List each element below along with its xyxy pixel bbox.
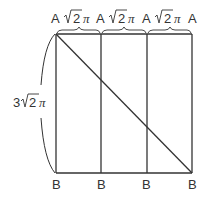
point-label-a-3: A — [142, 11, 151, 26]
point-label-b-4: B — [188, 177, 197, 192]
point-label-b-3: B — [142, 177, 151, 192]
svg-text:2: 2 — [73, 11, 80, 26]
svg-text:2: 2 — [118, 11, 125, 26]
svg-text:π: π — [83, 11, 90, 26]
svg-text:π: π — [174, 11, 181, 26]
cylinder-net-diagram: A A A A 2 π 2 π 2 π 3 2 π B B B B — [0, 0, 213, 199]
svg-text:2: 2 — [29, 95, 36, 110]
svg-text:π: π — [39, 95, 46, 110]
segment-label-2: 2 π — [109, 10, 135, 26]
point-label-b-2: B — [97, 177, 106, 192]
point-label-b-1: B — [52, 177, 61, 192]
point-label-a-4: A — [188, 11, 197, 26]
height-arc-lower — [41, 118, 55, 173]
segment-label-3: 2 π — [155, 10, 181, 26]
brace-top-3 — [148, 27, 191, 33]
diagonal-line — [56, 34, 192, 173]
point-label-a-1: A — [51, 11, 60, 26]
point-label-a-2: A — [96, 11, 105, 26]
brace-top-2 — [102, 27, 146, 33]
brace-top-1 — [57, 27, 100, 33]
svg-text:3: 3 — [13, 95, 20, 110]
height-arc-upper — [41, 34, 55, 85]
svg-text:2: 2 — [164, 11, 171, 26]
segment-label-1: 2 π — [64, 10, 90, 26]
height-label: 3 2 π — [13, 94, 46, 110]
svg-text:π: π — [128, 11, 135, 26]
